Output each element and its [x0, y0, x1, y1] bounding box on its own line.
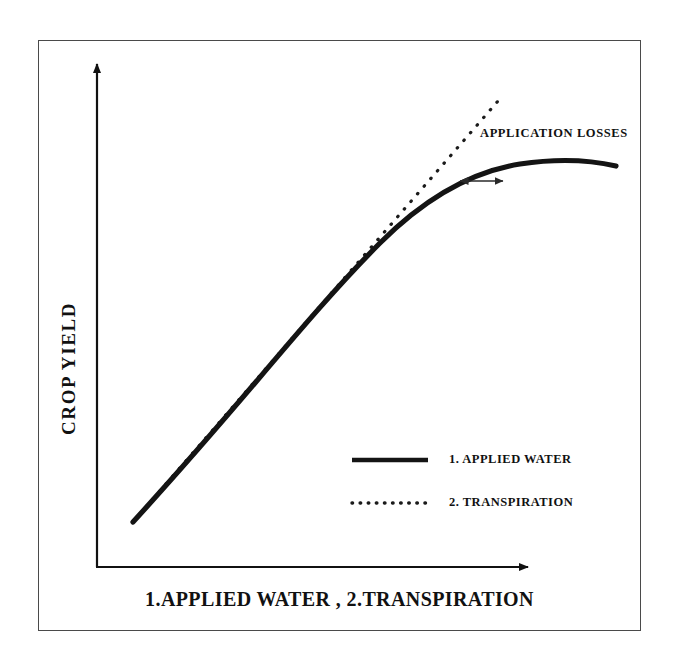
y-axis-label: CROP YIELD — [58, 185, 80, 435]
chart-canvas — [0, 0, 673, 666]
legend-item-transpiration: 2. TRANSPIRATION — [449, 495, 573, 510]
application-losses-annotation: APPLICATION LOSSES — [480, 126, 628, 141]
x-axis-label: 1.APPLIED WATER , 2.TRANSPIRATION — [38, 588, 641, 611]
figure-page: CROP YIELD 1.APPLIED WATER , 2.TRANSPIRA… — [0, 0, 673, 666]
series-line-applied-water — [133, 160, 616, 522]
legend-item-applied-water: 1. APPLIED WATER — [449, 452, 572, 467]
